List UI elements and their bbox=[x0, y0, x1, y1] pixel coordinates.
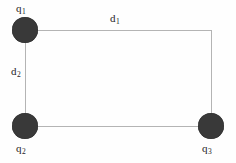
charge-label-q3-sub: 3 bbox=[208, 147, 212, 156]
distance-label-d2: d2 bbox=[11, 66, 21, 77]
distance-label-d1-base: d bbox=[110, 12, 116, 24]
charge-label-q1-base: q bbox=[16, 2, 22, 14]
edge-left bbox=[25, 30, 26, 126]
charge-node-q3 bbox=[198, 113, 224, 139]
distance-label-d2-sub: 2 bbox=[17, 70, 21, 79]
charge-label-q1-sub: 1 bbox=[22, 7, 26, 16]
edge-top bbox=[25, 30, 211, 31]
edge-right bbox=[211, 30, 212, 127]
charge-node-q1 bbox=[12, 17, 38, 43]
charge-label-q2: q2 bbox=[16, 143, 26, 154]
charge-label-q2-base: q bbox=[16, 142, 22, 154]
charge-node-q2 bbox=[12, 113, 38, 139]
distance-label-d1-sub: 1 bbox=[116, 17, 120, 26]
charge-label-q1: q1 bbox=[16, 3, 26, 14]
distance-label-d1: d1 bbox=[110, 13, 120, 24]
charge-label-q3: q3 bbox=[202, 143, 212, 154]
edge-bottom bbox=[25, 126, 211, 127]
charge-label-q2-sub: 2 bbox=[22, 147, 26, 156]
point-charge-diagram: q1 q2 q3 d1 d2 bbox=[0, 0, 236, 163]
distance-label-d2-base: d bbox=[11, 65, 17, 77]
charge-label-q3-base: q bbox=[202, 142, 208, 154]
